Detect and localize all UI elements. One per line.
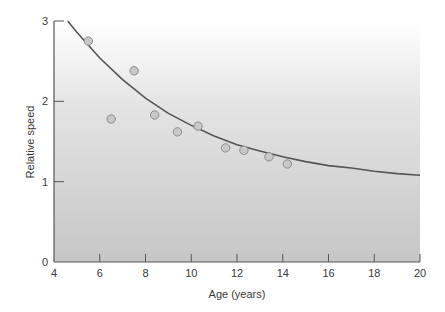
x-tick-label: 6 bbox=[97, 267, 103, 279]
chart: 4681012141618200123 Age (years) Relative… bbox=[0, 0, 445, 312]
y-tick-label: 0 bbox=[42, 256, 48, 268]
x-tick-label: 12 bbox=[231, 267, 243, 279]
data-point bbox=[194, 122, 202, 130]
data-point bbox=[151, 111, 159, 119]
x-tick-label: 16 bbox=[322, 267, 334, 279]
x-tick-label: 20 bbox=[414, 267, 426, 279]
y-tick-label: 2 bbox=[42, 95, 48, 107]
x-tick-label: 18 bbox=[368, 267, 380, 279]
data-point bbox=[283, 160, 291, 168]
x-tick-label: 4 bbox=[51, 267, 57, 279]
y-axis-title: Relative speed bbox=[24, 106, 36, 179]
x-tick-label: 10 bbox=[185, 267, 197, 279]
data-point bbox=[130, 67, 138, 75]
x-tick-label: 8 bbox=[142, 267, 148, 279]
data-point bbox=[240, 146, 248, 154]
data-point bbox=[265, 153, 273, 161]
plot-area bbox=[54, 21, 420, 262]
y-tick-label: 1 bbox=[42, 176, 48, 188]
data-point bbox=[173, 128, 181, 136]
y-tick-label: 3 bbox=[42, 15, 48, 27]
x-axis-title: Age (years) bbox=[209, 288, 266, 300]
data-point bbox=[84, 37, 92, 45]
data-point bbox=[221, 144, 229, 152]
x-tick-label: 14 bbox=[277, 267, 289, 279]
data-point bbox=[107, 115, 115, 123]
